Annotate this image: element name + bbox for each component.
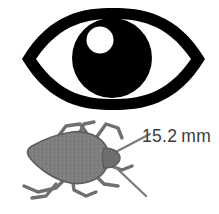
figure-root: 15.2mm	[0, 0, 219, 214]
stink-bug-icon	[10, 112, 155, 214]
bug-leg-front-right	[96, 124, 122, 138]
bug-body-shield	[28, 132, 109, 184]
measurement-value: 15.2	[142, 126, 177, 146]
eye-pupil	[72, 18, 152, 98]
eye-highlight	[87, 27, 114, 54]
measurement-unit: mm	[181, 126, 211, 146]
eye-icon	[0, 0, 219, 118]
size-measurement-label: 15.2mm	[142, 126, 211, 146]
